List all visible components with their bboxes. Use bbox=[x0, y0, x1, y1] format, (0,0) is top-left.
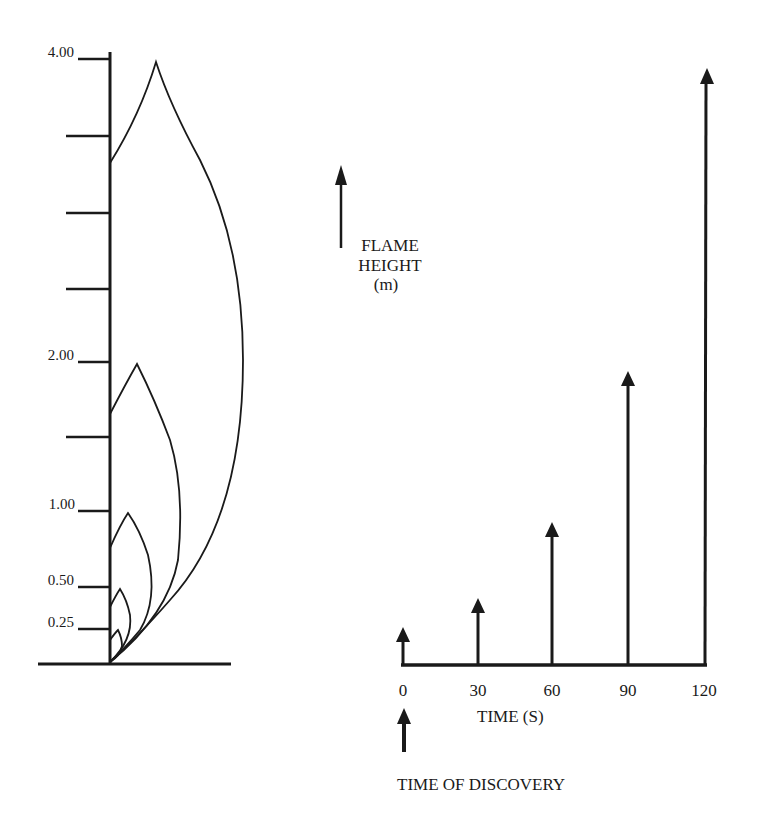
arrow-t0 bbox=[396, 627, 410, 665]
time-of-discovery-arrow-icon bbox=[397, 708, 411, 752]
flame-height-arrow-icon bbox=[335, 165, 347, 248]
y-axis-unit: (m) bbox=[342, 275, 430, 295]
flame-height-arrows bbox=[396, 68, 714, 665]
tick-label-2.00: 2.00 bbox=[24, 348, 74, 363]
y-axis-title-line1: FLAME bbox=[350, 236, 430, 256]
y-axis-title: FLAME HEIGHT (m) bbox=[350, 236, 430, 295]
diagram-canvas bbox=[0, 0, 758, 824]
arrow-t30 bbox=[471, 598, 485, 665]
arrow-t90 bbox=[621, 371, 635, 665]
x-tick-90: 90 bbox=[608, 682, 648, 699]
x-tick-30: 30 bbox=[458, 682, 498, 699]
flame-profiles bbox=[110, 62, 243, 662]
x-tick-0: 0 bbox=[383, 682, 423, 699]
tick-label-1.00: 1.00 bbox=[25, 497, 75, 512]
flame-outline-0.25m bbox=[110, 630, 122, 662]
x-tick-120: 120 bbox=[684, 682, 724, 699]
tick-label-0.25: 0.25 bbox=[24, 615, 74, 630]
y-axis-title-line2: HEIGHT bbox=[350, 256, 430, 276]
x-tick-60: 60 bbox=[532, 682, 572, 699]
x-axis-title: TIME (S) bbox=[477, 708, 544, 725]
tick-label-0.50: 0.50 bbox=[24, 573, 74, 588]
flame-outline-2m bbox=[110, 364, 180, 662]
flame-outline-4m bbox=[110, 62, 243, 662]
flame-outline-1m bbox=[110, 513, 152, 662]
arrow-t120 bbox=[700, 68, 714, 665]
tick-label-4.00: 4.00 bbox=[24, 45, 74, 60]
time-of-discovery-label: TIME OF DISCOVERY bbox=[397, 776, 565, 793]
arrow-t60 bbox=[545, 522, 559, 665]
